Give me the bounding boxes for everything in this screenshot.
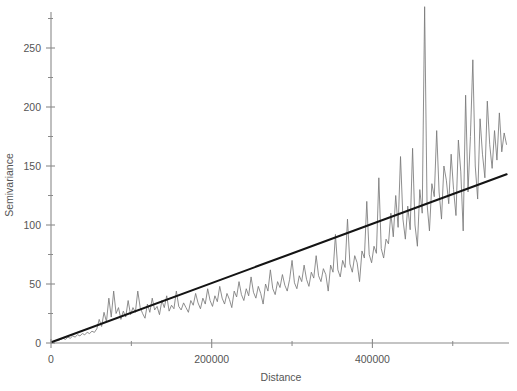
series-layer [53, 7, 507, 342]
y-axis-title: Semivariance [3, 153, 15, 217]
y-tick-label: 250 [23, 42, 41, 54]
empirical-semivariogram-line [53, 7, 506, 342]
semivariogram-chart: 0501001502002500200000400000 Distance Se… [0, 0, 517, 391]
y-tick-label: 50 [29, 278, 41, 290]
x-tick-label: 0 [48, 353, 54, 365]
x-tick-label: 400000 [355, 353, 390, 365]
y-tick-label: 150 [23, 160, 41, 172]
y-tick-label: 200 [23, 101, 41, 113]
plot-area: 0501001502002500200000400000 Distance Se… [0, 0, 517, 391]
label-layer: 0501001502002500200000400000 [23, 42, 390, 365]
fitted-model-line [53, 174, 507, 342]
x-tick-label: 200000 [194, 353, 229, 365]
axis-layer [46, 12, 509, 348]
x-axis-title: Distance [261, 371, 302, 383]
y-tick-label: 0 [35, 337, 41, 349]
y-tick-label: 100 [23, 219, 41, 231]
